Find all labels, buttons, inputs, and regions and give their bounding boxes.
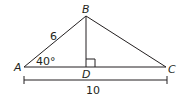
- right-angle-mark: [86, 59, 95, 67]
- side-bc: [86, 16, 166, 67]
- vertex-label-d: D: [82, 68, 90, 81]
- vertex-label-c: C: [168, 63, 176, 76]
- base-length-label: 10: [86, 84, 100, 97]
- vertex-label-a: A: [13, 61, 22, 74]
- angle-a-label: 40°: [36, 55, 56, 68]
- triangle-diagram: A B C D 6 40° 10: [0, 0, 185, 100]
- vertex-label-b: B: [82, 3, 90, 16]
- side-ab-length: 6: [50, 30, 57, 43]
